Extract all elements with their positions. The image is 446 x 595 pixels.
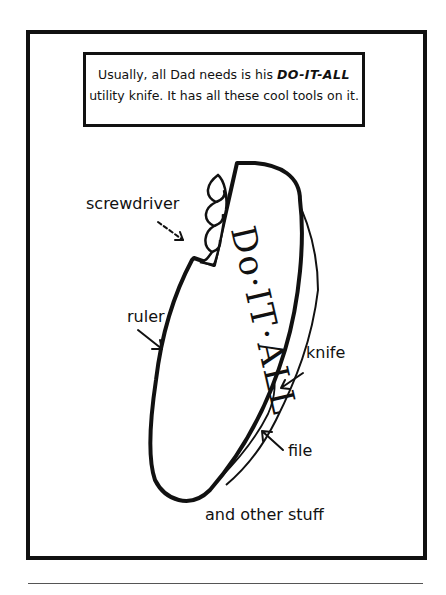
screwdriver-arrow bbox=[158, 222, 183, 240]
page-divider-rule bbox=[28, 583, 423, 584]
ruler-arrow bbox=[138, 330, 162, 349]
label-ruler: ruler bbox=[127, 307, 165, 326]
label-file: file bbox=[288, 441, 312, 460]
label-other-stuff: and other stuff bbox=[205, 505, 324, 524]
label-screwdriver: screwdriver bbox=[86, 194, 179, 213]
label-knife: knife bbox=[306, 343, 345, 362]
